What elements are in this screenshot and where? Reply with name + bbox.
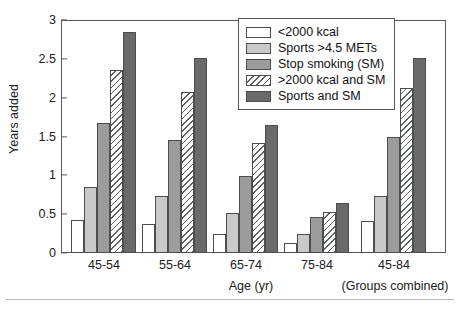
y-tick-mark [61,58,67,59]
legend-item-label: Sports >4.5 METs [278,42,377,55]
legend-swatch-icon [246,43,271,54]
bottom-divider [6,299,454,300]
y-tick-label: 1 [26,169,56,182]
y-tick-mark [61,97,67,98]
bar-chart-figure: 3 2.5 2 1.5 1 0.5 0 Years added 45-54 55… [0,0,460,309]
x-group-label-55-64: 55-64 [135,258,215,272]
y-tick-label: 2 [26,91,56,104]
legend-swatch-icon [246,59,271,70]
x-axis-title: Age (yr) [196,279,306,293]
y-tick-mark [61,252,67,253]
x-group-label-45-84: 45-84 [354,258,434,272]
y-tick-mark [61,175,67,176]
y-tick-mark [61,19,67,20]
x-group-label-75-84: 75-84 [277,258,357,272]
y-tick-label: 0 [26,247,56,260]
y-tick-label: 3 [26,14,56,27]
y-axis-tick-labels: 3 2.5 2 1.5 1 0.5 0 [22,0,56,309]
legend-item-sports-mets: Sports >4.5 METs [246,40,385,56]
legend-item-label: <2000 kcal [278,26,339,39]
y-tick-mark [61,136,67,137]
legend-item-label: Stop smoking (SM) [278,58,384,71]
legend-item-kcal-and-sm: >2000 kcal and SM [246,72,385,88]
y-tick-label: 0.5 [26,208,56,221]
legend-swatch-icon [246,91,271,102]
legend: <2000 kcal Sports >4.5 METs Stop smoking… [238,18,395,110]
y-tick-mark [61,214,67,215]
y-tick-label: 1.5 [26,130,56,143]
x-group-label-45-54: 45-54 [64,258,144,272]
y-axis-title: Years added [7,74,21,164]
x-group-label-65-74: 65-74 [206,258,286,272]
y-tick-label: 2.5 [26,53,56,66]
legend-item-label: Sports and SM [278,90,361,103]
legend-item-stop-smoking: Stop smoking (SM) [246,56,385,72]
legend-swatch-icon [246,75,271,86]
legend-item-label: >2000 kcal and SM [278,74,385,87]
legend-item-sports-and-sm: Sports and SM [246,88,385,104]
legend-item-lt2000-kcal: <2000 kcal [246,24,385,40]
x-axis-note-groups-combined: (Groups combined) [330,279,460,293]
legend-swatch-icon [246,27,271,38]
